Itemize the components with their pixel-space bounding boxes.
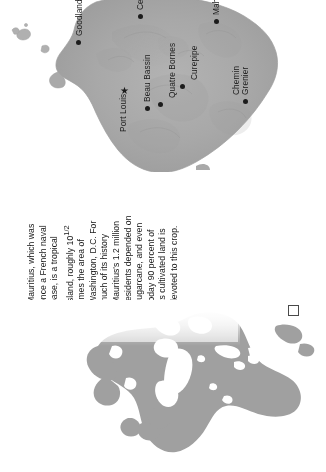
caption-line-12: its cultivated land is [157, 180, 169, 304]
city-label-chemin-grenier: Chemin Grenier [232, 49, 251, 95]
offshore-islets [12, 23, 49, 52]
caption-line-13: devoted to this crop. [169, 180, 181, 304]
scan-top-fade [86, 300, 238, 342]
city-label-curepipe: Curepipe [189, 46, 199, 80]
island-graphic: Goodlands Centre de Fla Mahebourg Beau B… [0, 0, 326, 172]
city-dot-beau-bassin [145, 106, 150, 111]
caption-fraction: 1/2 [62, 225, 71, 235]
city-dot-chemin-grenier [243, 99, 248, 104]
location-box-icon [288, 305, 299, 316]
caption-line-8: Mauritius's 1.2 million [111, 180, 123, 304]
caption-line-3: base, is a tropical [49, 180, 61, 304]
world-locator-map [0, 300, 326, 472]
mauritius-caption: Mauritius, which was once a French naval… [26, 180, 212, 304]
caption-line-10: sugarcane, and even [134, 180, 146, 304]
city-dot-mahebourg [214, 19, 219, 24]
southern-islet [196, 164, 210, 170]
city-label-port-louis: Port Louis [118, 94, 128, 132]
city-dot-goodlands [76, 40, 81, 45]
caption-line-6: Washington, D.C. For [88, 180, 100, 304]
city-label-goodlands: Goodlands [74, 0, 84, 36]
city-label-beau-bassin: Beau Bassin [142, 54, 152, 102]
caption-line-9: residents depended on [123, 180, 135, 304]
caption-line-11: today 90 percent of [146, 180, 158, 304]
caption-line-2: once a French naval [38, 180, 50, 304]
world-landmass-svg [0, 300, 326, 472]
caption-body: Mauritius, which was once a French naval… [26, 180, 181, 304]
city-dot-centre-de-flacq [138, 14, 143, 19]
city-label-centre-de-flacq: Centre de Fla [135, 0, 145, 10]
caption-line-4: island, roughly 101/2 [61, 180, 76, 304]
caption-line-1: Mauritius, which was [26, 180, 38, 304]
city-label-mahebourg: Mahebourg [211, 0, 221, 15]
landmass-northeast-islands [275, 324, 315, 356]
city-label-quatre-bornes: Quatre Bornes [167, 43, 177, 98]
city-dot-quatre-bornes [158, 102, 163, 107]
island-shape-svg [0, 0, 326, 172]
atlas-page: Goodlands Centre de Fla Mahebourg Beau B… [0, 0, 326, 472]
caption-line-4-text: island, roughly 10 [65, 236, 75, 304]
mauritius-detail-map: Goodlands Centre de Fla Mahebourg Beau B… [0, 0, 326, 172]
city-dot-curepipe [180, 84, 185, 89]
caption-line-5: times the area of [76, 180, 88, 304]
caption-line-7: much of its history [99, 180, 111, 304]
caption-rotated-container: Mauritius, which was once a French naval… [26, 180, 212, 304]
